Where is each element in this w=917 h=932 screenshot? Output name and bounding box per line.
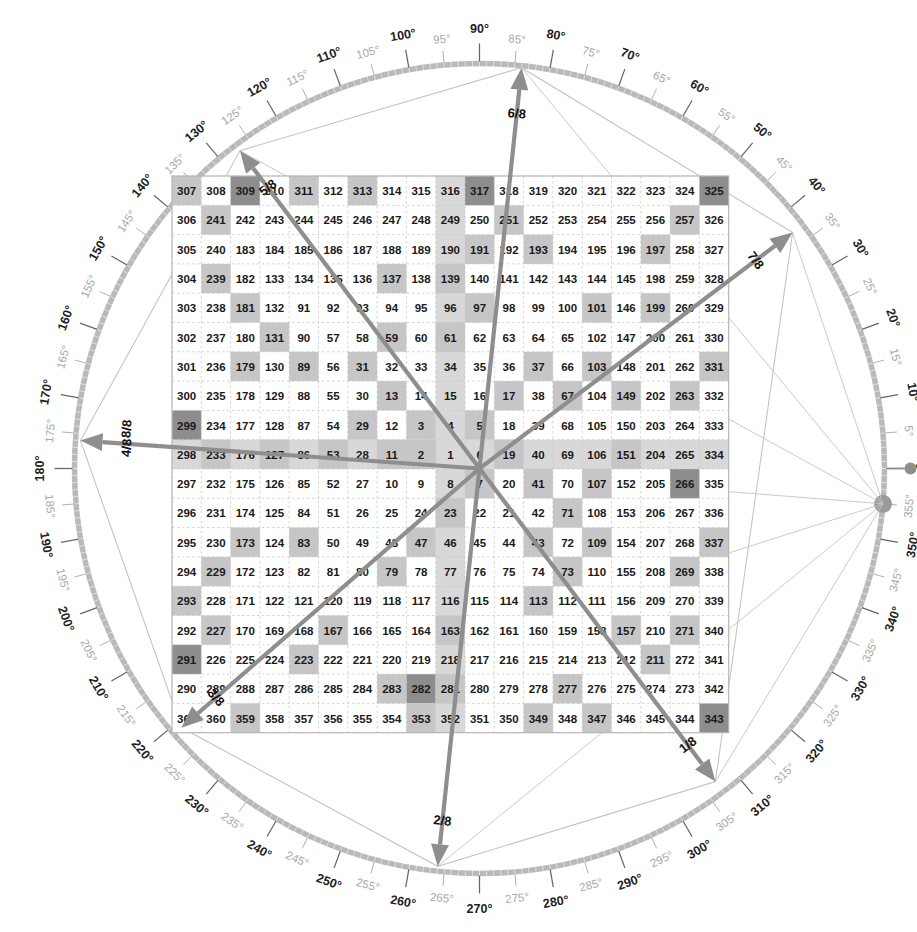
- compass-ray: [480, 90, 520, 469]
- ray-label: 6/8: [507, 105, 527, 122]
- ray-arrowhead: [695, 759, 715, 782]
- compass-ray: [440, 469, 480, 845]
- ray-arrowhead: [80, 433, 103, 451]
- compass-ray: [102, 442, 479, 468]
- compass-ray: [480, 246, 775, 469]
- ray-label: 4/8: [118, 438, 134, 457]
- ray-arrowhead: [770, 233, 793, 253]
- ray-arrowhead: [240, 151, 260, 174]
- ulam-spiral-figure: 0°5°10°15°20°25°30°35°40°45°50°55°60°65°…: [0, 0, 917, 932]
- ray-label: 2/8: [433, 812, 453, 829]
- ray-arrowhead: [510, 68, 528, 91]
- ray-arrowhead: [431, 843, 449, 866]
- ray-overlay: 1/82/83/84/85/86/87/88/8: [0, 0, 917, 932]
- ray-label: 8/8: [118, 419, 134, 438]
- compass-ray: [253, 168, 479, 468]
- compass-ray: [480, 469, 703, 764]
- compass-ray: [198, 469, 480, 714]
